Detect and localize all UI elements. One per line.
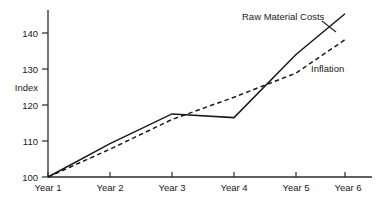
x-tick-label-year-2: Year 2 bbox=[96, 182, 123, 193]
chart-canvas: 140 130 120 110 100 Index Year 1 Year 2 … bbox=[0, 0, 381, 207]
x-tick-labels: Year 1 Year 2 Year 3 Year 4 Year 5 Year … bbox=[34, 182, 361, 193]
series-label-inflation: Inflation bbox=[311, 63, 344, 74]
series-line-inflation bbox=[48, 40, 345, 177]
y-tick-label-130: 130 bbox=[22, 64, 38, 75]
series-line-raw-material-costs bbox=[48, 14, 345, 177]
x-tick-label-year-3: Year 3 bbox=[158, 182, 185, 193]
y-tick-label-120: 120 bbox=[22, 100, 38, 111]
y-tick-label-140: 140 bbox=[22, 28, 38, 39]
x-tick-label-year-5: Year 5 bbox=[282, 182, 309, 193]
series-label-raw-material-costs: Raw Material Costs bbox=[242, 11, 325, 22]
x-tick-marks bbox=[48, 172, 345, 177]
y-tick-marks bbox=[42, 33, 48, 177]
x-tick-label-year-4: Year 4 bbox=[220, 182, 247, 193]
line-chart: 140 130 120 110 100 Index Year 1 Year 2 … bbox=[0, 0, 381, 207]
y-axis-title: Index bbox=[15, 82, 38, 93]
y-tick-label-100: 100 bbox=[22, 172, 38, 183]
y-tick-label-110: 110 bbox=[23, 136, 38, 147]
y-tick-labels: 140 130 120 110 100 bbox=[22, 28, 38, 183]
x-tick-label-year-6: Year 6 bbox=[334, 182, 361, 193]
x-tick-label-year-1: Year 1 bbox=[34, 182, 61, 193]
